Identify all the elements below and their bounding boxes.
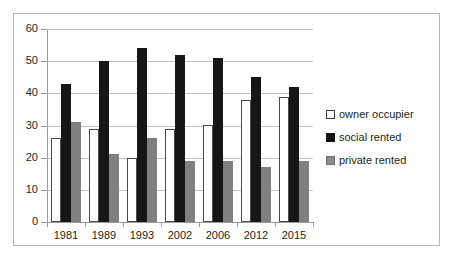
legend-label: social rented [339, 131, 401, 143]
bar-social-2012 [251, 77, 261, 222]
bar-group [199, 29, 237, 222]
legend-swatch-owner-icon [326, 110, 335, 119]
bar-owner-2006 [203, 125, 213, 222]
x-axis-label-2015: 2015 [275, 228, 313, 242]
bar-group [161, 29, 199, 222]
bar-chart-figure: 0102030405060 19811989199320022006201220… [0, 0, 452, 267]
bar-group [275, 29, 313, 222]
bar-private-1993 [147, 138, 157, 222]
bar-social-2015 [289, 87, 299, 222]
bar-social-2002 [175, 55, 185, 222]
bar-group [85, 29, 123, 222]
x-axis-tick [47, 222, 48, 227]
bar-owner-2015 [279, 97, 289, 222]
plot-area [47, 29, 313, 222]
y-axis-tick-label: 50 [4, 55, 38, 66]
x-axis-tick [123, 222, 124, 227]
bar-owner-1993 [127, 158, 137, 222]
bar-owner-1981 [51, 138, 61, 222]
x-axis-label-2002: 2002 [161, 228, 199, 242]
legend-swatch-private-icon [326, 156, 335, 165]
x-axis-tick [275, 222, 276, 227]
legend-label: owner occupier [339, 108, 414, 120]
y-axis-tick-label: 30 [4, 120, 38, 131]
legend-item-private[interactable]: private rented [326, 150, 436, 170]
bar-private-2012 [261, 167, 271, 222]
x-axis-labels: 1981198919932002200620122015 [0, 228, 452, 244]
y-axis-tick-label: 40 [4, 87, 38, 98]
bar-private-1981 [71, 122, 81, 222]
y-axis-tick-label: 10 [4, 184, 38, 195]
y-axis-labels: 0102030405060 [0, 0, 38, 267]
bar-group [237, 29, 275, 222]
bar-private-1989 [109, 154, 119, 222]
gridline [47, 222, 313, 223]
x-axis-label-1989: 1989 [85, 228, 123, 242]
x-axis-label-1981: 1981 [47, 228, 85, 242]
x-axis-label-2006: 2006 [199, 228, 237, 242]
chart-legend: owner occupiersocial rentedprivate rente… [326, 104, 436, 173]
x-axis-tick [313, 222, 314, 227]
y-axis-tick-label: 60 [4, 23, 38, 34]
legend-swatch-social-icon [326, 133, 335, 142]
bar-social-1989 [99, 61, 109, 222]
x-axis-label-1993: 1993 [123, 228, 161, 242]
legend-item-owner[interactable]: owner occupier [326, 104, 436, 124]
legend-label: private rented [339, 154, 406, 166]
x-axis-tick [237, 222, 238, 227]
bar-private-2002 [185, 161, 195, 222]
bar-owner-1989 [89, 129, 99, 222]
x-axis-tick [199, 222, 200, 227]
bar-private-2015 [299, 161, 309, 222]
x-axis-label-2012: 2012 [237, 228, 275, 242]
bar-private-2006 [223, 161, 233, 222]
bar-owner-2002 [165, 129, 175, 222]
bar-social-1981 [61, 84, 71, 222]
x-axis-tick [161, 222, 162, 227]
x-axis-tick [85, 222, 86, 227]
bar-owner-2012 [241, 100, 251, 222]
bar-social-2006 [213, 58, 223, 222]
legend-item-social[interactable]: social rented [326, 127, 436, 147]
bar-group [47, 29, 85, 222]
y-axis-tick-label: 20 [4, 152, 38, 163]
bar-group [123, 29, 161, 222]
y-axis-tick-label: 0 [4, 216, 38, 227]
bar-social-1993 [137, 48, 147, 222]
